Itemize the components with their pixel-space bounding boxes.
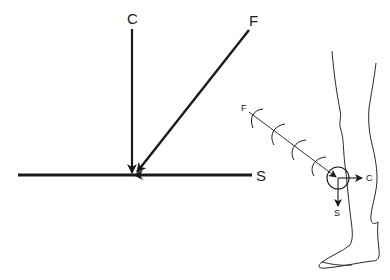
force-vector-arrow — [137, 30, 249, 172]
leg-outline-back — [319, 51, 379, 268]
leg-shear-label: S — [334, 209, 340, 218]
force-vector-diagram — [18, 29, 252, 175]
diagram-canvas: C F S F C S — [0, 0, 390, 280]
shear-label: S — [256, 168, 266, 183]
wave-arc-4 — [312, 157, 326, 176]
leg-compression-label: C — [366, 174, 373, 183]
foot-outline — [322, 262, 352, 265]
leg-outline-front — [369, 63, 378, 224]
force-label: F — [249, 13, 258, 28]
impact-force-path — [249, 109, 362, 206]
wave-arc-3 — [292, 140, 306, 160]
leg-force-label: F — [241, 104, 247, 113]
compression-label: C — [127, 11, 138, 26]
diagram-graphics — [0, 0, 390, 280]
leg-diagram — [319, 51, 379, 268]
